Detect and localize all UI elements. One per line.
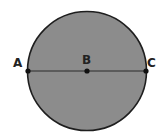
point-a-dot [25, 68, 30, 73]
label-a: A [13, 56, 23, 70]
circle-diagram: A B C [0, 0, 163, 134]
point-b-dot [84, 68, 89, 73]
label-b: B [82, 53, 91, 67]
label-c: C [147, 56, 156, 70]
